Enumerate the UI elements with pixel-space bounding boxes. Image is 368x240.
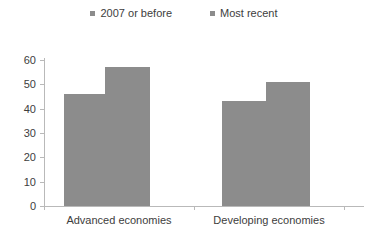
- plot-area: [44, 60, 364, 206]
- legend-item-2007-or-before: 2007 or before: [90, 8, 172, 19]
- legend-item-most-recent: Most recent: [210, 8, 277, 19]
- y-axis-label-10: 10: [10, 177, 36, 188]
- legend-label-most-recent: Most recent: [220, 8, 277, 19]
- legend-swatch-2007-or-before: [90, 11, 95, 16]
- y-axis-label-60: 60: [10, 55, 36, 66]
- y-axis-label-0: 0: [10, 201, 36, 212]
- y-axis-label-50: 50: [10, 79, 36, 90]
- legend-swatch-most-recent: [210, 11, 215, 16]
- y-axis-label-40: 40: [10, 104, 36, 115]
- chart-legend: 2007 or before Most recent: [0, 8, 368, 19]
- x-axis-label-advanced-economies: Advanced economies: [44, 214, 194, 227]
- y-axis-label-20: 20: [10, 152, 36, 163]
- x-axis-tick-mid: [194, 206, 195, 210]
- x-axis-tick-end: [344, 206, 345, 210]
- y-axis-label-30: 30: [10, 128, 36, 139]
- x-axis-label-developing-economies: Developing economies: [194, 214, 344, 227]
- bar-chart: 2007 or before Most recent 60 50 40 30 2…: [0, 0, 368, 240]
- legend-label-2007-or-before: 2007 or before: [100, 8, 172, 19]
- bar-developing-economies-most-recent: [266, 82, 310, 206]
- x-axis-tick-start: [44, 206, 45, 210]
- bar-developing-economies-2007-or-before: [222, 101, 266, 206]
- bar-advanced-economies-most-recent: [105, 67, 150, 206]
- x-axis-line: [44, 206, 364, 207]
- bar-advanced-economies-2007-or-before: [64, 94, 105, 206]
